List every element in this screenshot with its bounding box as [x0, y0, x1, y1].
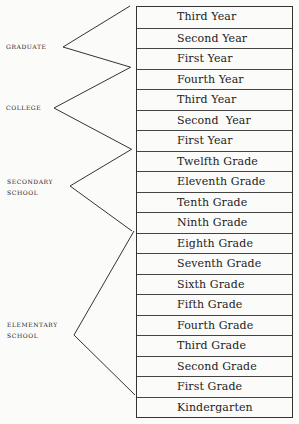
grade-row: Ninth Grade [137, 212, 292, 233]
level-label-elementary: Elementary School [7, 319, 58, 341]
grade-row: Seventh Grade [137, 253, 292, 274]
level-label-text: Secondary [7, 176, 53, 187]
grade-row: Fourth Year [137, 69, 292, 90]
college-bracket [54, 67, 131, 149]
grade-row: Fifth Grade [137, 294, 292, 315]
school-levels-diagram: Graduate College Secondary School Elemen… [0, 0, 299, 424]
level-label-secondary: Secondary School [7, 176, 53, 198]
grade-row: Second Year [137, 110, 292, 131]
level-label-text: School [7, 330, 58, 341]
level-label-text: Elementary [7, 319, 58, 330]
grade-row: First Year [137, 130, 292, 151]
grade-row: Fourth Grade [137, 315, 292, 336]
level-label-text: Graduate [6, 41, 47, 51]
grade-row: Second Year [137, 28, 292, 49]
grade-row: Tenth Grade [137, 192, 292, 213]
grade-row: Third Grade [137, 335, 292, 356]
graduate-bracket [63, 6, 130, 67]
grade-row: First Grade [137, 376, 292, 397]
grade-row: First Year [137, 48, 292, 69]
grade-row: Sixth Grade [137, 274, 292, 295]
grade-row: Third Year [137, 7, 292, 28]
grade-row: Twelfth Grade [137, 151, 292, 172]
grade-row: Eighth Grade [137, 233, 292, 254]
grade-row: Second Grade [137, 356, 292, 377]
secondary-bracket [70, 149, 132, 231]
level-label-text: School [7, 187, 53, 198]
grade-row: Kindergarten [137, 397, 292, 418]
level-label-graduate: Graduate [6, 41, 47, 52]
level-label-text: College [6, 102, 41, 112]
grade-column: Third Year Second Year First Year Fourth… [136, 6, 293, 418]
grade-row: Eleventh Grade [137, 171, 292, 192]
level-label-college: College [6, 102, 41, 113]
grade-row: Third Year [137, 89, 292, 110]
elementary-bracket [74, 231, 135, 395]
